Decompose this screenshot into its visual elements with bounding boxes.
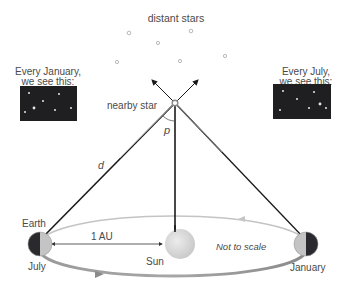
nearby-star-label: nearby star [107,100,158,111]
nearby-star-icon [172,100,178,106]
sightline-arrow-right [175,80,198,103]
parallax-angle-label: p [163,124,170,136]
parallax-diagram: distant stars Every January, we see this… [0,0,344,293]
not-to-scale-label: Not to scale [216,241,266,252]
july-label: July [28,261,46,272]
au-label: 1 AU [91,231,113,242]
distant-stars-label: distant stars [148,12,205,24]
distant-star-icon [189,29,193,33]
distant-star-icon [127,31,131,35]
distant-star-icon [223,54,226,57]
january-caption-line2: we see this: [21,76,75,87]
january-label: January [290,262,326,273]
distant-star-icon [115,60,118,63]
parallax-angle-arc [163,116,175,121]
sun-label: Sun [146,256,164,267]
sightline-highlight-right [175,103,222,152]
earth-label: Earth [22,218,46,229]
distant-stars [115,29,226,63]
july-sky-panel [273,84,331,119]
earth-july-icon [28,232,52,256]
orbit-direction-arrow-icon [238,216,245,222]
january-sky-panel [20,86,77,121]
distance-label: d [98,159,105,171]
sun-icon [165,229,195,259]
earth-january-icon [294,232,318,256]
distant-star-icon [178,59,181,62]
distant-star-icon [156,41,159,44]
